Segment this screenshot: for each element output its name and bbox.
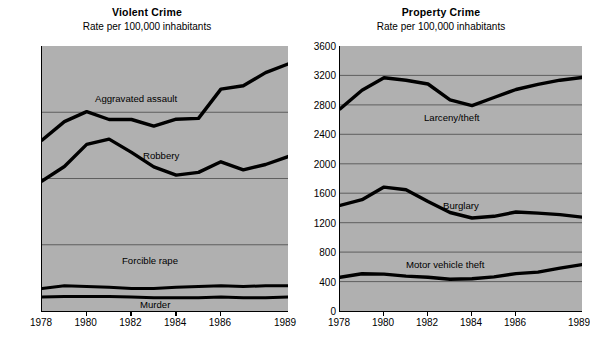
violent-crime-subtitle: Rate per 100,000 inhabitants xyxy=(0,21,294,32)
property-ytick-1200: 1200 xyxy=(296,217,336,228)
property-ytick-3200: 3200 xyxy=(296,70,336,81)
property-ytick-1600: 1600 xyxy=(296,188,336,199)
label-burglary: Burglary xyxy=(443,200,479,211)
violent-crime-plot-svg xyxy=(42,46,288,311)
property-xtickmark-1982 xyxy=(427,311,428,316)
property-xtick-1978: 1978 xyxy=(328,317,350,328)
violent-xtick-1982: 1982 xyxy=(119,317,141,328)
property-xtickmark-1984 xyxy=(471,311,472,316)
property-crime-panel: Property Crime Rate per 100,000 inhabita… xyxy=(294,0,588,349)
property-ytick-400: 400 xyxy=(296,276,336,287)
property-xtick-1986: 1986 xyxy=(504,317,526,328)
violent-xtick-1978: 1978 xyxy=(30,317,52,328)
series-murder xyxy=(42,296,288,297)
property-crime-subtitle: Rate per 100,000 inhabitants xyxy=(294,21,588,32)
property-crime-title: Property Crime xyxy=(294,6,588,18)
label-larceny-theft: Larceny/theft xyxy=(424,112,479,123)
violent-xtick-1980: 1980 xyxy=(75,317,97,328)
label-murder: Murder xyxy=(140,299,170,310)
property-xtick-1989: 1989 xyxy=(568,317,590,328)
property-crime-plot-svg xyxy=(340,46,582,311)
property-crime-plot-area: Larceny/theft Burglary Motor vehicle the… xyxy=(339,46,582,312)
property-ytick-2800: 2800 xyxy=(296,99,336,110)
violent-xtickmark-1980 xyxy=(86,311,87,316)
property-ytick-3600: 3600 xyxy=(296,41,336,52)
series-forcible-rape xyxy=(42,286,288,289)
property-xtickmark-1980 xyxy=(383,311,384,316)
violent-xtick-1989: 1989 xyxy=(274,317,296,328)
label-motor-vehicle-theft: Motor vehicle theft xyxy=(406,259,484,270)
violent-xtick-1984: 1984 xyxy=(164,317,186,328)
property-xtick-1980: 1980 xyxy=(372,317,394,328)
violent-xtickmark-1982 xyxy=(130,311,131,316)
label-aggravated-assault: Aggravated assault xyxy=(95,93,177,104)
series-larceny-theft xyxy=(340,78,582,110)
property-xtickmark-1986 xyxy=(515,311,516,316)
violent-xtick-1986: 1986 xyxy=(209,317,231,328)
label-forcible-rape: Forcible rape xyxy=(122,255,178,266)
violent-xtickmark-1984 xyxy=(175,311,176,316)
property-xtick-1984: 1984 xyxy=(460,317,482,328)
violent-crime-panel: Violent Crime Rate per 100,000 inhabitan… xyxy=(0,0,294,349)
property-ytick-2400: 2400 xyxy=(296,129,336,140)
violent-crime-plot-area: Aggravated assault Robbery Forcible rape… xyxy=(41,46,288,312)
property-ytick-800: 800 xyxy=(296,247,336,258)
violent-crime-title: Violent Crime xyxy=(0,6,294,18)
property-ytick-2000: 2000 xyxy=(296,158,336,169)
property-ytick-0: 0 xyxy=(296,306,336,317)
label-robbery: Robbery xyxy=(143,150,179,161)
property-xtick-1982: 1982 xyxy=(416,317,438,328)
violent-xtickmark-1986 xyxy=(220,311,221,316)
